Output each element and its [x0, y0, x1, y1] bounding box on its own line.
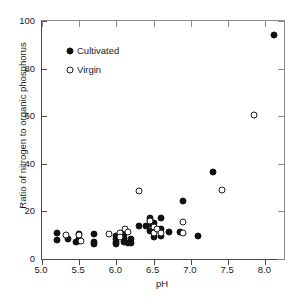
y-axis-tick [42, 69, 47, 70]
data-point-cultivated [195, 232, 202, 239]
data-point-cultivated [135, 223, 142, 230]
data-point-virgin [77, 237, 84, 244]
data-point-virgin [219, 186, 226, 193]
x-axis-tick-label: 5.5 [72, 264, 85, 275]
data-point-cultivated [180, 198, 187, 205]
x-axis-tick-label: 6.0 [109, 264, 122, 275]
data-point-virgin [106, 231, 113, 238]
y-axis-tick [42, 116, 47, 117]
x-axis-tick-label: 6.5 [146, 264, 159, 275]
y-axis-tick [42, 211, 47, 212]
legend-label-cultivated: Cultivated [77, 45, 119, 56]
y-axis-tick-right [278, 211, 284, 212]
data-point-cultivated [128, 239, 135, 246]
open-circle-icon [64, 64, 76, 76]
x-axis-title: pH [41, 278, 283, 289]
legend-label-virgin: Virgin [77, 64, 101, 75]
data-point-virgin [180, 230, 187, 237]
data-point-cultivated [165, 228, 172, 235]
x-axis-tick-label: 7.5 [221, 264, 234, 275]
data-point-cultivated [53, 229, 60, 236]
data-point-cultivated [210, 168, 217, 175]
y-axis-tick-right [278, 259, 284, 260]
data-point-virgin [251, 111, 258, 118]
x-axis-tick-label: 8.0 [258, 264, 271, 275]
data-point-virgin [117, 233, 124, 240]
x-axis-tick-labels: 5.05.56.06.57.07.58.0 [41, 264, 283, 278]
legend-item-virgin: Virgin [64, 60, 174, 79]
x-axis-tick-top [265, 21, 266, 27]
data-point-cultivated [53, 236, 60, 243]
x-axis-tick-top [79, 21, 80, 27]
plot-area: Cultivated Virgin [41, 20, 285, 260]
data-point-cultivated [158, 215, 165, 222]
y-axis-title: Ratio of nitrogen to organic phosphorus [17, 7, 28, 245]
x-axis-tick-label: 5.0 [34, 264, 47, 275]
x-axis-tick-top [116, 21, 117, 27]
data-point-virgin [135, 188, 142, 195]
x-axis-tick-label: 7.0 [183, 264, 196, 275]
x-axis-tick-top [228, 21, 229, 27]
y-axis-tick-right [278, 164, 284, 165]
filled-circle-icon [64, 45, 76, 57]
data-point-virgin [62, 231, 69, 238]
data-point-virgin [124, 229, 131, 236]
legend: Cultivated Virgin [64, 41, 174, 79]
data-point-cultivated [91, 231, 98, 238]
y-axis-tick-right [278, 116, 284, 117]
data-point-cultivated [91, 241, 98, 248]
data-point-virgin [180, 219, 187, 226]
data-point-cultivated [113, 240, 120, 247]
x-axis-tick-top [191, 21, 192, 27]
y-axis-tick-right [278, 21, 284, 22]
x-axis-tick-top [42, 21, 43, 27]
data-point-cultivated [271, 32, 278, 39]
x-axis-tick-top [154, 21, 155, 27]
data-point-virgin [158, 229, 165, 236]
scatter-plot-figure: 020406080100 Cultivated Virgin 5.05.56.0… [0, 0, 301, 305]
legend-item-cultivated: Cultivated [64, 41, 174, 60]
y-axis-tick-right [278, 69, 284, 70]
y-axis-tick-label: 0 [30, 253, 35, 264]
y-axis-tick [42, 164, 47, 165]
